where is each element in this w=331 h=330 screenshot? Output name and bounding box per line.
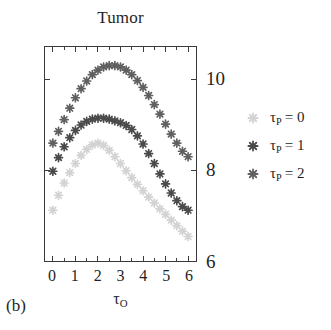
data-point: [184, 233, 192, 241]
data-point: [55, 127, 63, 135]
data-point: [156, 170, 164, 178]
data-point: [71, 94, 79, 102]
data-point: [49, 139, 57, 147]
y-tick-label: 6: [206, 252, 216, 271]
data-point: [150, 160, 158, 168]
y-tick-label: 8: [206, 160, 216, 179]
legend-item[interactable]: τP = 0: [243, 104, 331, 132]
data-point: [184, 206, 192, 214]
data-point: [128, 174, 136, 182]
x-tick-label: 6: [181, 268, 197, 284]
legend-label: τP = 1: [270, 137, 304, 155]
legend-marker-icon: [243, 136, 263, 156]
data-point: [162, 180, 170, 188]
data-point: [145, 150, 153, 158]
data-point: [167, 130, 175, 138]
data-point: [167, 189, 175, 197]
data-point: [162, 120, 170, 128]
data-point: [150, 101, 158, 109]
plot-area: [44, 46, 197, 262]
data-point: [117, 160, 125, 168]
legend-item[interactable]: τP = 2: [243, 160, 331, 188]
chart-title: Tumor: [44, 8, 197, 28]
data-point: [100, 63, 108, 71]
data-point: [66, 134, 74, 142]
y-tick-label: 10: [206, 69, 225, 88]
x-tick-label: 2: [90, 268, 106, 284]
data-point: [60, 143, 68, 151]
data-point: [133, 132, 141, 140]
data-point: [66, 169, 74, 177]
data-point: [49, 206, 57, 214]
x-axis-title: τO: [44, 290, 197, 309]
data-point: [184, 153, 192, 161]
data-point: [156, 110, 164, 118]
data-point: [55, 191, 63, 199]
data-point: [173, 139, 181, 147]
data-point: [133, 77, 141, 85]
x-tick-label: 1: [67, 268, 83, 284]
panel-label: (b): [6, 296, 26, 316]
data-point: [145, 92, 153, 100]
legend-item[interactable]: τP = 1: [243, 132, 331, 160]
series-2: [49, 62, 192, 161]
x-tick-label: 5: [158, 268, 174, 284]
data-point: [139, 140, 147, 148]
legend-label-value: = 0: [282, 109, 305, 125]
data-point: [66, 104, 74, 112]
data-point: [60, 116, 68, 124]
figure-panel-b: Tumor 6810 0123456 τO (b) τP = 0τP = 1τP…: [0, 0, 331, 330]
legend-label-value: = 1: [282, 137, 305, 153]
x-axis-title-subscript: O: [120, 297, 128, 309]
x-tick-label: 4: [135, 268, 151, 284]
legend-label: τP = 0: [270, 109, 304, 127]
data-point: [139, 83, 147, 91]
data-point: [49, 167, 57, 175]
chart-legend: τP = 0τP = 1τP = 2: [243, 104, 331, 188]
data-point: [60, 179, 68, 187]
data-point: [71, 160, 79, 168]
data-point: [122, 121, 130, 129]
data-point: [111, 153, 119, 161]
legend-marker-icon: [243, 108, 263, 128]
legend-label-value: = 2: [282, 165, 305, 181]
plot-canvas: [45, 47, 196, 261]
x-tick-label: 0: [44, 268, 60, 284]
x-tick-label: 3: [113, 268, 129, 284]
data-point: [55, 154, 63, 162]
legend-marker-icon: [243, 164, 263, 184]
data-point: [111, 62, 119, 70]
data-point: [77, 85, 85, 93]
legend-label: τP = 2: [270, 165, 304, 183]
data-point: [122, 167, 130, 175]
